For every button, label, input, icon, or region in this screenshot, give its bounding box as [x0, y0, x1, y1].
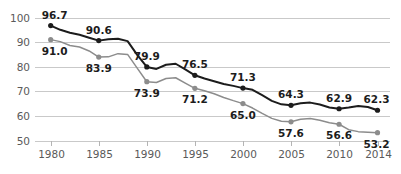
- x-axis-label-1980: 1980: [38, 148, 65, 160]
- chart-canvas: 5060708090100 19801985199019952000200520…: [0, 0, 401, 174]
- data-point-lower-1980: [48, 37, 53, 42]
- data-point-upper-2000: [240, 86, 245, 91]
- y-axis-label-60: 60: [17, 110, 30, 122]
- data-label-lower-1995: 71.2: [182, 93, 208, 105]
- data-label-upper-1995: 76.5: [182, 58, 208, 70]
- data-label-upper-2010: 62.9: [326, 92, 352, 104]
- x-axis-label-2005: 2005: [278, 148, 305, 160]
- data-label-lower-2014: 53.2: [364, 138, 390, 150]
- data-label-lower-1990: 73.9: [134, 87, 160, 99]
- y-axis-label-50: 50: [17, 135, 30, 147]
- data-point-markers-group: [48, 23, 380, 135]
- data-label-upper-2005: 64.3: [278, 88, 304, 100]
- y-axis-label-90: 90: [17, 36, 30, 48]
- data-point-upper-1995: [192, 73, 197, 78]
- data-label-upper-1980: 96.7: [42, 9, 68, 21]
- data-point-labels-group: 96.790.679.976.571.364.362.962.391.083.9…: [42, 9, 390, 150]
- data-point-lower-1995: [192, 86, 197, 91]
- data-point-lower-2014: [375, 130, 380, 135]
- data-point-lower-1990: [144, 79, 149, 84]
- data-label-lower-1980: 91.0: [42, 45, 68, 57]
- data-label-upper-2014: 62.3: [364, 93, 390, 105]
- data-point-upper-2005: [288, 103, 293, 108]
- x-axis-label-1995: 1995: [182, 148, 209, 160]
- y-axis-label-80: 80: [17, 61, 30, 73]
- data-label-lower-1985: 83.9: [86, 62, 112, 74]
- data-point-lower-2000: [240, 101, 245, 106]
- data-point-lower-2005: [288, 119, 293, 124]
- data-label-upper-1985: 90.6: [86, 24, 112, 36]
- y-axis-labels-group: 5060708090100: [10, 12, 30, 147]
- x-axis-label-2010: 2010: [326, 148, 353, 160]
- data-point-lower-2010: [336, 122, 341, 127]
- data-label-upper-2000: 71.3: [230, 71, 256, 83]
- data-point-upper-1985: [96, 38, 101, 43]
- y-axis-label-70: 70: [17, 85, 30, 97]
- x-axis-label-1985: 1985: [86, 148, 113, 160]
- data-point-upper-1980: [48, 23, 53, 28]
- data-label-lower-2005: 57.6: [278, 127, 304, 139]
- data-label-lower-2000: 65.0: [230, 109, 256, 121]
- data-label-upper-1990: 79.9: [134, 50, 160, 62]
- data-label-lower-2010: 56.6: [326, 129, 352, 141]
- series-line-lower: [51, 40, 378, 133]
- data-point-upper-1990: [144, 64, 149, 69]
- y-axis-label-100: 100: [10, 12, 30, 24]
- data-point-upper-2010: [336, 106, 341, 111]
- line-chart: 5060708090100 19801985199019952000200520…: [0, 0, 401, 174]
- x-axis-label-1990: 1990: [134, 148, 161, 160]
- x-axis-labels-group: 19801985199019952000200520102014: [38, 148, 392, 160]
- data-point-upper-2014: [375, 108, 380, 113]
- x-axis-label-2000: 2000: [230, 148, 257, 160]
- data-point-lower-1985: [96, 55, 101, 60]
